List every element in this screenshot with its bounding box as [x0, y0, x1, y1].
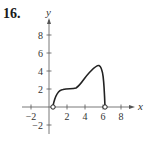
- y-tick-label: −2: [32, 120, 43, 131]
- y-tick-label: 8: [38, 30, 43, 41]
- function-curve: [53, 65, 105, 107]
- x-tick-label: 6: [101, 111, 106, 122]
- x-tick-label: 4: [83, 111, 88, 122]
- y-arrow-icon: [47, 18, 51, 24]
- y-tick-label: 6: [38, 48, 43, 59]
- open-endpoint-icon: [103, 105, 107, 109]
- open-endpoint-icon: [51, 105, 55, 109]
- y-tick-label: 2: [38, 84, 43, 95]
- x-tick-label: 2: [65, 111, 70, 122]
- x-axis-label: x: [137, 100, 143, 112]
- y-tick-label: 4: [38, 66, 43, 77]
- graph: −2 2 4 6 8 −2 2 4 6 8 x y: [0, 0, 150, 141]
- x-arrow-icon: [129, 105, 135, 109]
- x-tick-label: 8: [119, 111, 124, 122]
- y-axis-label: y: [45, 6, 51, 18]
